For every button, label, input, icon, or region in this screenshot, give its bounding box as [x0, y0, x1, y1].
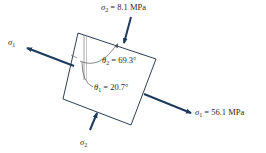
sigma2-top-arrow [124, 17, 131, 43]
stress-element-diagram: σ2 = 8.1 MPa σ1 θ2 = 69.3° θ1 = 20.7° σ1… [0, 0, 266, 153]
diagram-canvas [0, 0, 266, 153]
theta1-arc [82, 62, 93, 87]
theta2-label: θ2 = 69.3° [102, 56, 137, 66]
sigma1-left-label: σ1 [8, 38, 15, 48]
sigma1-left-arrow [27, 48, 74, 66]
normal-tick [71, 55, 77, 58]
sigma1-right-label: σ1 = 56.1 MPa [195, 108, 244, 118]
stress-element-square [63, 33, 156, 125]
theta1-label: θ1 = 20.7° [94, 83, 129, 93]
sigma1-right-arrow [144, 94, 191, 113]
sigma2-top-label: σ2 = 8.1 MPa [101, 3, 146, 13]
sigma2-bottom-label: σ2 [80, 138, 87, 148]
sigma2-bottom-arrow [90, 113, 97, 130]
